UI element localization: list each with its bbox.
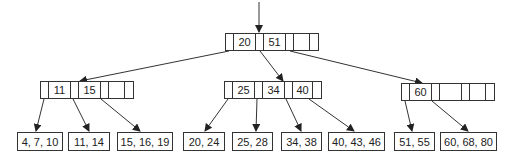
pointer-cell: [285, 82, 293, 98]
root-node: 20 51: [225, 33, 319, 51]
key-cell: [470, 84, 486, 100]
key-cell: 20: [234, 34, 256, 50]
pointer-cell: [226, 34, 234, 50]
pointer-cell: [402, 84, 410, 100]
pointer-cell: [256, 34, 264, 50]
leaf-node: 60, 68, 80: [440, 132, 497, 151]
leaf-node: 40, 43, 46: [328, 132, 385, 151]
pointer-cell: [101, 82, 109, 98]
leaf-node: 4, 7, 10: [17, 132, 63, 151]
key-cell: 15: [79, 82, 101, 98]
key-cell: [440, 84, 462, 100]
pointer-cell: [41, 82, 49, 98]
key-cell: 51: [264, 34, 286, 50]
key-cell: 25: [233, 82, 255, 98]
internal-node-right: 60: [401, 83, 495, 101]
pointer-cell: [313, 82, 321, 98]
leaf-node: 11, 14: [68, 132, 110, 151]
pointer-cell: [310, 34, 318, 50]
key-cell: 34: [263, 82, 285, 98]
key-cell: 40: [293, 82, 313, 98]
pointer-cell: [71, 82, 79, 98]
pointer-cell: [286, 34, 294, 50]
pointer-cell: [486, 84, 494, 100]
internal-node-middle: 25 34 40: [224, 81, 322, 99]
pointer-cell: [225, 82, 233, 98]
key-cell: 11: [49, 82, 71, 98]
pointer-cell: [125, 82, 133, 98]
key-cell: 60: [410, 84, 432, 100]
pointer-cell: [432, 84, 440, 100]
leaf-node: 51, 55: [394, 132, 435, 151]
internal-node-left: 11 15: [40, 81, 134, 99]
leaf-node: 15, 16, 19: [117, 132, 173, 151]
key-cell: [109, 82, 125, 98]
leaf-node: 34, 38: [281, 132, 322, 151]
leaf-node: 25, 28: [232, 132, 273, 151]
key-cell: [294, 34, 310, 50]
leaf-node: 20, 24: [183, 132, 225, 151]
pointer-cell: [255, 82, 263, 98]
pointer-cell: [462, 84, 470, 100]
